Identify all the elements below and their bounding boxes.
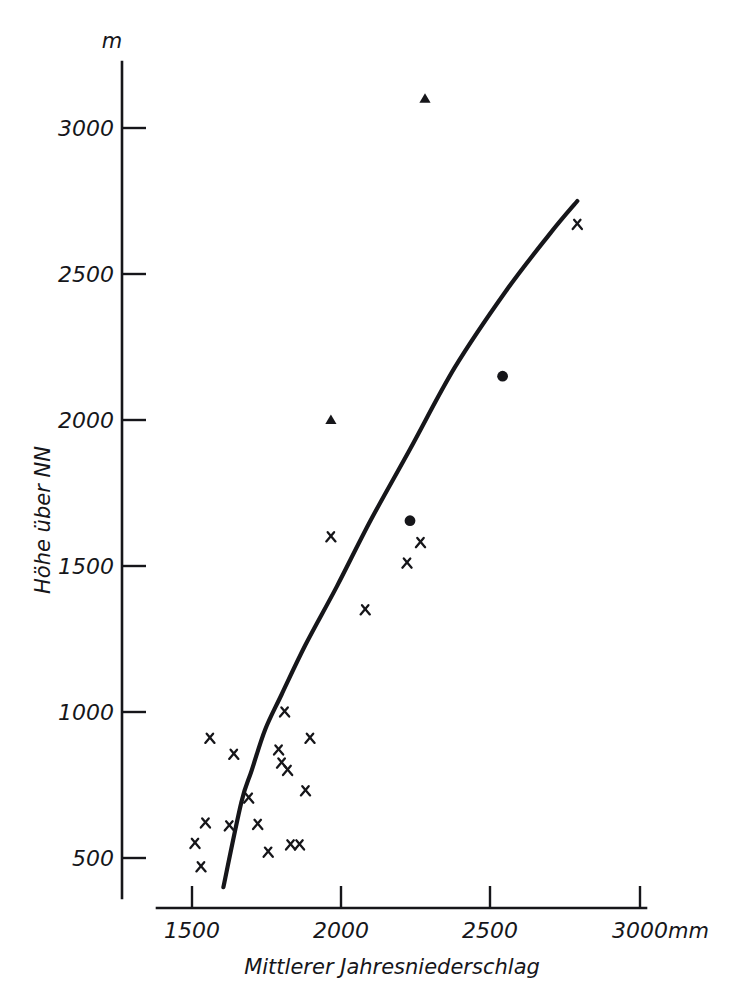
figure-container: m 3000 2500 2000 1500 1000 500 Höhe über…: [0, 0, 755, 1006]
data-point-cross: [264, 848, 273, 857]
data-point-cross: [361, 605, 370, 614]
data-point-cross: [301, 786, 310, 795]
fit-curve-layer: [223, 201, 577, 887]
y-tick-label-500: 500: [72, 846, 114, 871]
data-point-cross: [326, 532, 335, 541]
y-tick-label-3000: 3000: [58, 116, 114, 141]
data-point-cross: [190, 839, 199, 848]
y-axis-unit-label: m: [102, 29, 122, 53]
data-point-cross: [244, 794, 253, 803]
data-point-cross: [229, 750, 238, 759]
x-tick-label-2000: 2000: [313, 918, 369, 943]
data-point-cross: [416, 538, 425, 547]
scatter-plot: m 3000 2500 2000 1500 1000 500 Höhe über…: [0, 0, 755, 1006]
x-axis-unit-label: mm: [668, 919, 709, 943]
x-tick-label-3000: 3000: [612, 918, 668, 943]
data-point-triangle: [325, 414, 336, 424]
y-tick-label-1500: 1500: [58, 554, 114, 579]
y-axis-title: Höhe über NN: [31, 446, 55, 594]
data-point-cross: [280, 707, 289, 716]
data-point-cross: [402, 559, 411, 568]
data-markers-layer: [190, 93, 582, 871]
data-point-triangle: [419, 93, 430, 103]
x-axis: 1500 2000 2500 3000 mm Mittlerer Jahresn…: [157, 886, 709, 979]
regression-curve: [223, 201, 577, 887]
y-axis: m 3000 2500 2000 1500 1000 500 Höhe über…: [31, 29, 146, 898]
data-point-cross: [283, 766, 292, 775]
x-tick-label-1500: 1500: [164, 918, 220, 943]
data-point-circle: [405, 515, 416, 526]
data-point-cross: [253, 820, 262, 829]
data-point-cross: [305, 734, 314, 743]
y-tick-label-2000: 2000: [58, 408, 114, 433]
data-point-cross: [196, 862, 205, 871]
data-point-circle: [497, 371, 508, 382]
y-tick-label-2500: 2500: [58, 262, 114, 287]
data-point-cross: [225, 821, 234, 830]
y-tick-label-1000: 1000: [58, 700, 114, 725]
data-point-cross: [573, 220, 582, 229]
x-axis-title: Mittlerer Jahresniederschlag: [244, 955, 540, 979]
data-point-cross: [201, 818, 210, 827]
data-point-cross: [274, 745, 283, 754]
data-point-cross: [295, 840, 304, 849]
x-tick-label-2500: 2500: [462, 918, 518, 943]
data-point-cross: [286, 840, 295, 849]
data-point-cross: [205, 734, 214, 743]
